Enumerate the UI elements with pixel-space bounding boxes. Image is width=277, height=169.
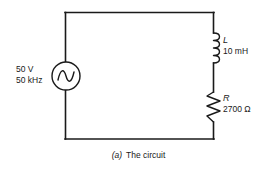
figure-caption: (a)The circuit <box>0 150 277 160</box>
figure-caption-label: (a) <box>112 150 122 160</box>
resistor-symbol <box>207 92 220 122</box>
resistor-label: R 2700 Ω <box>223 93 251 114</box>
ac-source-symbol <box>52 62 80 90</box>
source-label: 50 V 50 kHz <box>16 64 42 85</box>
inductor-value: 10 mH <box>223 46 248 57</box>
resistor-symbol-letter: R <box>223 93 251 104</box>
inductor-label: L 10 mH <box>223 35 248 56</box>
inductor-coils <box>214 33 220 63</box>
inductor-symbol <box>214 33 220 63</box>
circuit-diagram: 50 V 50 kHz L 10 mH R 2700 Ω (a)The circ… <box>0 0 277 169</box>
resistor-value: 2700 Ω <box>223 104 251 115</box>
inductor-symbol-letter: L <box>223 35 248 46</box>
resistor-zigzag <box>207 92 220 122</box>
figure-caption-text: The circuit <box>126 150 165 160</box>
source-voltage-value: 50 V <box>16 64 42 75</box>
source-frequency-value: 50 kHz <box>16 75 42 86</box>
